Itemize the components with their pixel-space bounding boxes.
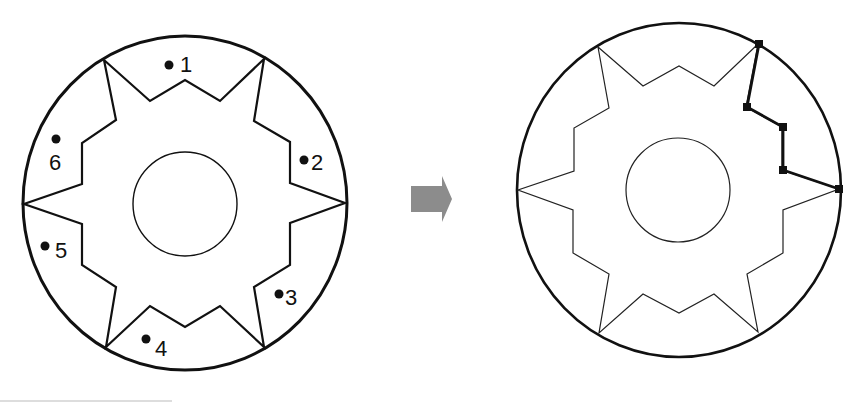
- region-marker-2: 2: [300, 150, 324, 175]
- region-label: 5: [55, 238, 67, 263]
- left-inner-circle: [133, 152, 237, 256]
- region-dot: [142, 335, 151, 344]
- region-dot: [41, 242, 50, 251]
- region-dot: [275, 290, 284, 299]
- region-label: 3: [285, 285, 297, 310]
- left-figure: 1 2 3 4 5 6: [23, 36, 347, 370]
- right-gear-outline: [518, 44, 839, 333]
- right-arrow-icon: [411, 176, 452, 222]
- region-dot: [300, 156, 309, 165]
- region-marker-1: 1: [165, 52, 193, 77]
- region-label: 6: [49, 150, 61, 175]
- segment-node-handle: [779, 123, 787, 131]
- region-label: 1: [180, 52, 192, 77]
- region-dot: [165, 61, 174, 70]
- region-marker-4: 4: [142, 335, 168, 362]
- diagram-canvas: 1 2 3 4 5 6: [0, 0, 854, 402]
- right-outer-circle: [517, 23, 841, 357]
- segment-node-handle: [743, 103, 751, 111]
- region-marker-3: 3: [275, 285, 298, 310]
- region-label: 2: [311, 150, 323, 175]
- region-marker-6: 6: [49, 135, 61, 176]
- region-label: 4: [155, 336, 167, 361]
- right-inner-circle: [626, 138, 730, 242]
- segment-node-handle: [835, 185, 843, 193]
- left-outer-circle: [23, 36, 347, 370]
- right-figure: [517, 23, 843, 357]
- region-marker-5: 5: [41, 238, 68, 263]
- region-dot: [52, 135, 61, 144]
- segment-node-handle: [779, 166, 787, 174]
- segment-node-handle: [755, 40, 763, 48]
